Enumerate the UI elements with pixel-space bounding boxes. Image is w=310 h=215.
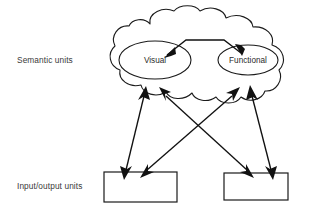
node-visual: Visual: [119, 41, 191, 79]
node-visual-label: Visual: [144, 56, 166, 65]
connection-left-box-to-cloud-outer: [120, 86, 150, 180]
node-functional: Functional: [218, 45, 278, 75]
node-functional-label: Functional: [229, 56, 267, 65]
io-box-right: [224, 173, 288, 200]
connection-right-box-to-cloud-outer: [246, 85, 277, 180]
diagram-graphics: Visual Functional cloud (left, steep) ==…: [0, 0, 310, 215]
diagram-canvas: Semantic units Input/output units Visual…: [0, 0, 310, 215]
semantic-units-cloud: [110, 6, 283, 103]
io-box-left: [104, 172, 177, 202]
connection-left-box-to-cloud-crossing: [140, 87, 240, 178]
arrowhead-into-visual: [164, 47, 176, 58]
